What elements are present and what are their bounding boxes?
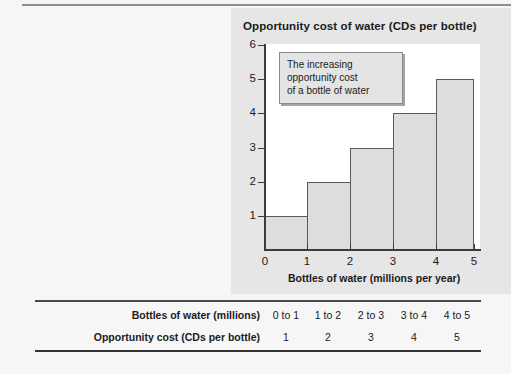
chart-title: Opportunity cost of water (CDs per bottl… — [243, 20, 477, 32]
y-tick-label-5: 5 — [238, 72, 256, 84]
table-cell: 1 to 2 — [306, 309, 350, 321]
x-axis-line — [264, 249, 481, 251]
y-tick-label-3: 3 — [238, 141, 256, 153]
y-tick-1 — [258, 216, 266, 217]
y-tick-3 — [258, 148, 266, 149]
table-cell: 4 — [392, 331, 436, 343]
y-tick-4 — [258, 113, 266, 114]
table-cell: 4 to 5 — [435, 309, 479, 321]
x-tick-label-4: 4 — [426, 255, 446, 267]
x-tick-label-0: 0 — [255, 255, 275, 267]
x-tick-2 — [350, 244, 351, 251]
table-row-label-text: Bottles of water (millions) — [60, 309, 260, 321]
annotation-line-3: of a bottle of water — [287, 84, 395, 97]
table-cell: 0 to 1 — [264, 309, 308, 321]
table-cell: 1 — [264, 331, 308, 343]
bar-3-to-4 — [393, 113, 437, 251]
x-tick-label-3: 3 — [383, 255, 403, 267]
table-cell: 3 to 4 — [392, 309, 436, 321]
y-tick-label-1: 1 — [238, 209, 256, 221]
x-tick-3 — [393, 244, 394, 251]
figure-page: Opportunity cost of water (CDs per bottl… — [0, 0, 511, 374]
bar-0-to-1 — [265, 216, 308, 251]
annotation-line-1: The increasing — [287, 58, 395, 71]
y-tick-label-2: 2 — [238, 175, 256, 187]
table-top-rule — [35, 300, 481, 302]
bar-4-to-5 — [436, 79, 474, 251]
table-cell: 2 — [306, 331, 350, 343]
table-cell: 2 to 3 — [349, 309, 393, 321]
y-tick-2 — [258, 182, 266, 183]
y-tick-label-4: 4 — [238, 106, 256, 118]
x-tick-label-5: 5 — [464, 255, 484, 267]
table-cell: 3 — [349, 331, 393, 343]
y-tick-6 — [258, 45, 266, 46]
y-tick-label-6: 6 — [238, 38, 256, 50]
annotation-callout: The increasing opportunity cost of a bot… — [279, 52, 403, 104]
table-cell: 5 — [435, 331, 479, 343]
x-axis-title: Bottles of water (millions per year) — [288, 272, 460, 284]
x-tick-label-2: 2 — [340, 255, 360, 267]
page-top-rule — [22, 4, 511, 6]
x-tick-label-1: 1 — [297, 255, 317, 267]
x-tick-1 — [307, 244, 308, 251]
table-bottom-rule — [35, 350, 481, 352]
x-tick-4 — [436, 244, 437, 251]
annotation-line-2: opportunity cost — [287, 71, 395, 84]
x-tick-5 — [474, 244, 475, 251]
x-tick-0 — [265, 244, 266, 251]
y-tick-5 — [258, 79, 266, 80]
bar-1-to-2 — [307, 182, 351, 251]
table-row-label-text: Opportunity cost (CDs per bottle) — [40, 331, 260, 343]
bar-2-to-3 — [350, 148, 394, 251]
